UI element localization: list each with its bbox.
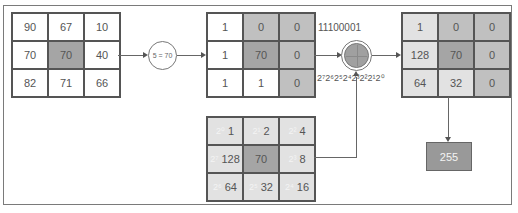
input-cell: 66 <box>84 69 120 97</box>
input-cell: 90 <box>12 13 48 41</box>
binary-grid: 1 0 0 1 70 0 1 1 0 <box>206 12 316 98</box>
result-cell: 0 <box>474 41 510 69</box>
input-cell: 70 <box>12 41 48 69</box>
weight-cell: 2⁴16 <box>279 173 315 201</box>
weight-cell: 2⁷128 <box>207 145 243 173</box>
result-cell: 128 <box>402 41 438 69</box>
binary-cell: 0 <box>279 41 315 69</box>
result-grid: 1 0 0 128 70 0 64 32 0 <box>401 12 511 98</box>
connector-line <box>177 55 201 56</box>
input-cell: 67 <box>48 13 84 41</box>
result-cell: 32 <box>438 69 474 97</box>
connector-line <box>314 55 338 56</box>
connector-line <box>314 157 357 158</box>
binary-cell: 1 <box>207 69 243 97</box>
lbp-output-value: 255 <box>426 142 472 171</box>
binary-code-label: 11100001 <box>318 22 361 33</box>
result-cell: 0 <box>438 13 474 41</box>
weight-center-cell: 70 <box>243 145 279 173</box>
weight-cell: 2³8 <box>279 145 315 173</box>
binary-center-cell: 70 <box>243 41 279 69</box>
weight-grid: 2⁰1 2¹2 2²4 2⁷128 70 2³8 2⁶64 2⁵32 2⁴16 <box>206 116 316 202</box>
connector-line <box>448 97 449 137</box>
input-cell: 10 <box>84 13 120 41</box>
powers-label: 2⁷2⁶2⁵2⁴2³2²2¹2⁰ <box>317 73 385 83</box>
input-pixel-grid: 90 67 10 70 70 40 82 71 66 <box>11 12 121 98</box>
binary-cell: 1 <box>207 13 243 41</box>
connector-line <box>372 55 396 56</box>
binary-cell: 0 <box>243 13 279 41</box>
connector-line <box>118 55 143 56</box>
weight-cell: 2²4 <box>279 117 315 145</box>
binary-cell: 1 <box>207 41 243 69</box>
multiply-node <box>341 40 372 71</box>
result-cell: 0 <box>474 13 510 41</box>
result-cell: 1 <box>402 13 438 41</box>
result-cell: 64 <box>402 69 438 97</box>
arrow-icon <box>353 71 359 76</box>
input-cell: 82 <box>12 69 48 97</box>
input-cell: 71 <box>48 69 84 97</box>
threshold-node: 5 = 70 <box>148 41 177 70</box>
weight-cell: 2⁰1 <box>207 117 243 145</box>
result-cell: 0 <box>474 69 510 97</box>
input-cell: 40 <box>84 41 120 69</box>
weight-cell: 2⁶64 <box>207 173 243 201</box>
threshold-label: 5 = 70 <box>153 52 173 59</box>
input-center-cell: 70 <box>48 41 84 69</box>
result-center-cell: 70 <box>438 41 474 69</box>
weight-cell: 2⁵32 <box>243 173 279 201</box>
binary-cell: 0 <box>279 69 315 97</box>
crosshair-v <box>357 45 358 66</box>
connector-line <box>356 77 357 158</box>
binary-cell: 1 <box>243 69 279 97</box>
weight-cell: 2¹2 <box>243 117 279 145</box>
binary-cell: 0 <box>279 13 315 41</box>
